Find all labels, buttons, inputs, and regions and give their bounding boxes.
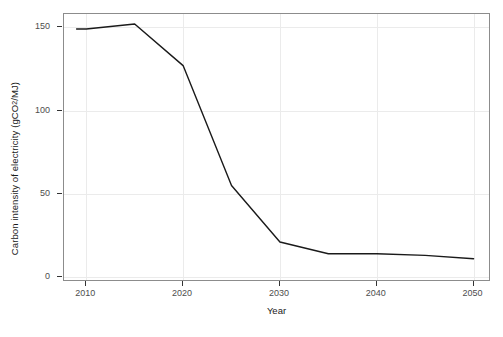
x-tick-mark-2050: [473, 281, 474, 286]
x-tick-label-2050: 2050: [463, 288, 483, 298]
y-tick-mark-100: [57, 110, 62, 111]
x-tick-label-2010: 2010: [75, 288, 95, 298]
y-axis-tick-labels: 050100150: [0, 0, 55, 337]
x-tick-mark-2010: [85, 281, 86, 286]
plot-panel: [63, 13, 490, 281]
x-tick-label-2040: 2040: [366, 288, 386, 298]
x-tick-mark-2030: [279, 281, 280, 286]
y-tick-mark-50: [57, 193, 62, 194]
x-tick-mark-2040: [376, 281, 377, 286]
x-tick-mark-2020: [182, 281, 183, 286]
y-tick-mark-150: [57, 26, 62, 27]
x-tick-label-2020: 2020: [172, 288, 192, 298]
y-tick-label-150: 150: [0, 21, 55, 31]
chart-figure: Carbon intensity of electricity (gCO2/MJ…: [0, 0, 503, 337]
y-tick-mark-0: [57, 276, 62, 277]
x-axis-title: Year: [63, 305, 490, 316]
y-tick-label-50: 50: [0, 188, 55, 198]
y-tick-label-0: 0: [0, 271, 55, 281]
x-tick-label-2030: 2030: [269, 288, 289, 298]
series-line-carbon-intensity: [64, 14, 490, 281]
y-tick-label-100: 100: [0, 105, 55, 115]
